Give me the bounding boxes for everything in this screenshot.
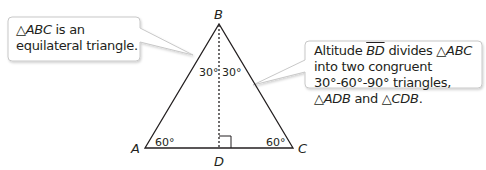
right-angle-mark <box>219 136 231 148</box>
vertex-label-b: B <box>214 7 223 22</box>
vertex-label-d: D <box>214 154 224 169</box>
triangle-symbol: △ <box>382 91 392 106</box>
angle-label-a: 60° <box>155 136 175 149</box>
text-segment: Altitude <box>314 43 366 58</box>
segment-bd: BD <box>366 43 384 58</box>
text-segment: divides <box>385 43 437 58</box>
triangle-symbol: △ <box>436 43 446 58</box>
left-callout-text: △ABC is an equilateral triangle. <box>16 22 138 54</box>
angle-label-abd: 30° <box>199 66 219 79</box>
triangle-symbol: △ <box>16 22 26 37</box>
triangle-name: CDB <box>392 91 419 106</box>
triangle-symbol: △ <box>314 91 324 106</box>
angle-label-dbc: 30° <box>222 66 242 79</box>
vertex-label-c: C <box>298 141 308 156</box>
triangle-name: ADB <box>324 91 351 106</box>
right-callout-text: Altitude BD divides △ABC into two congru… <box>314 43 482 107</box>
text-segment: and <box>351 91 382 106</box>
triangle-name: ABC <box>26 22 52 37</box>
text-segment: into two congruent 30°-60°-90° triangles… <box>314 59 451 90</box>
vertex-label-a: A <box>130 141 140 156</box>
triangle-name: ABC <box>446 43 472 58</box>
angle-label-c: 60° <box>266 136 286 149</box>
text-segment: . <box>419 91 423 106</box>
